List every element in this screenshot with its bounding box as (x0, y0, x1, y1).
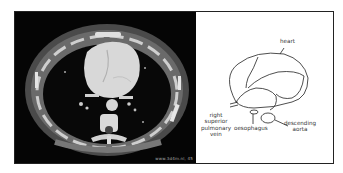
label-heart: heart (280, 38, 295, 44)
label-oesophagus: oesophagus (234, 125, 268, 131)
label-line: aorta (280, 126, 320, 132)
heart-outline-drawing (196, 12, 333, 163)
label-line: vein (198, 131, 234, 137)
figure: www.3d4m.nl, 45 (14, 11, 334, 164)
label-descending-aorta: descending aorta (280, 120, 320, 133)
anatomy-line-diagram: heart right superior pulmonary vein oeso… (196, 12, 333, 163)
ct-scan-graphic (15, 12, 196, 163)
label-right-superior-pulmonary-vein: right superior pulmonary vein (198, 112, 234, 138)
watermark-text: www.3d4m.nl, 45 (155, 156, 193, 161)
ct-scan-image: www.3d4m.nl, 45 (15, 12, 196, 163)
